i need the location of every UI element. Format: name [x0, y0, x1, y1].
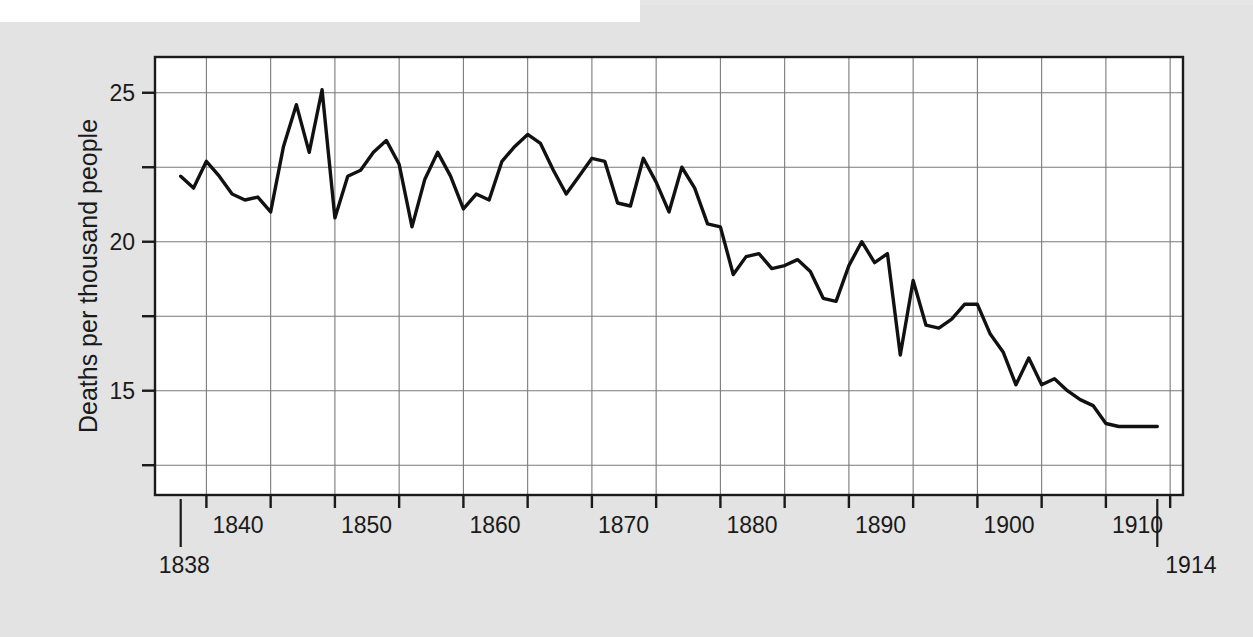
endpoint-label: 1838: [159, 552, 210, 578]
y-axis-title: Deaths per thousand people: [74, 119, 102, 433]
y-axis-tick-label: 25: [109, 80, 135, 106]
x-axis-tick-label: 1880: [726, 512, 777, 538]
x-axis-ticks: [206, 495, 1170, 508]
x-axis-tick-labels: 18401850186018701880189019001910: [212, 512, 1163, 538]
x-axis-tick-label: 1900: [983, 512, 1034, 538]
y-axis-tick-label: 20: [109, 229, 135, 255]
x-axis-tick-label: 1850: [341, 512, 392, 538]
x-axis-tick-label: 1910: [1112, 512, 1163, 538]
x-axis-tick-label: 1870: [598, 512, 649, 538]
figure-background: 252015 18401850186018701880189019001910 …: [0, 0, 1253, 637]
line-chart: 252015 18401850186018701880189019001910 …: [0, 0, 1253, 637]
endpoint-label: 1914: [1165, 552, 1216, 578]
x-axis-tick-label: 1860: [469, 512, 520, 538]
x-axis-tick-label: 1890: [855, 512, 906, 538]
y-axis-tick-label: 15: [109, 378, 135, 404]
plot-area-background: [155, 57, 1183, 495]
y-axis-ticks: [142, 93, 155, 465]
x-axis-tick-label: 1840: [212, 512, 263, 538]
axis-endpoint-annotations: 18381914: [159, 499, 1217, 578]
y-axis-tick-labels: 252015: [109, 80, 135, 404]
